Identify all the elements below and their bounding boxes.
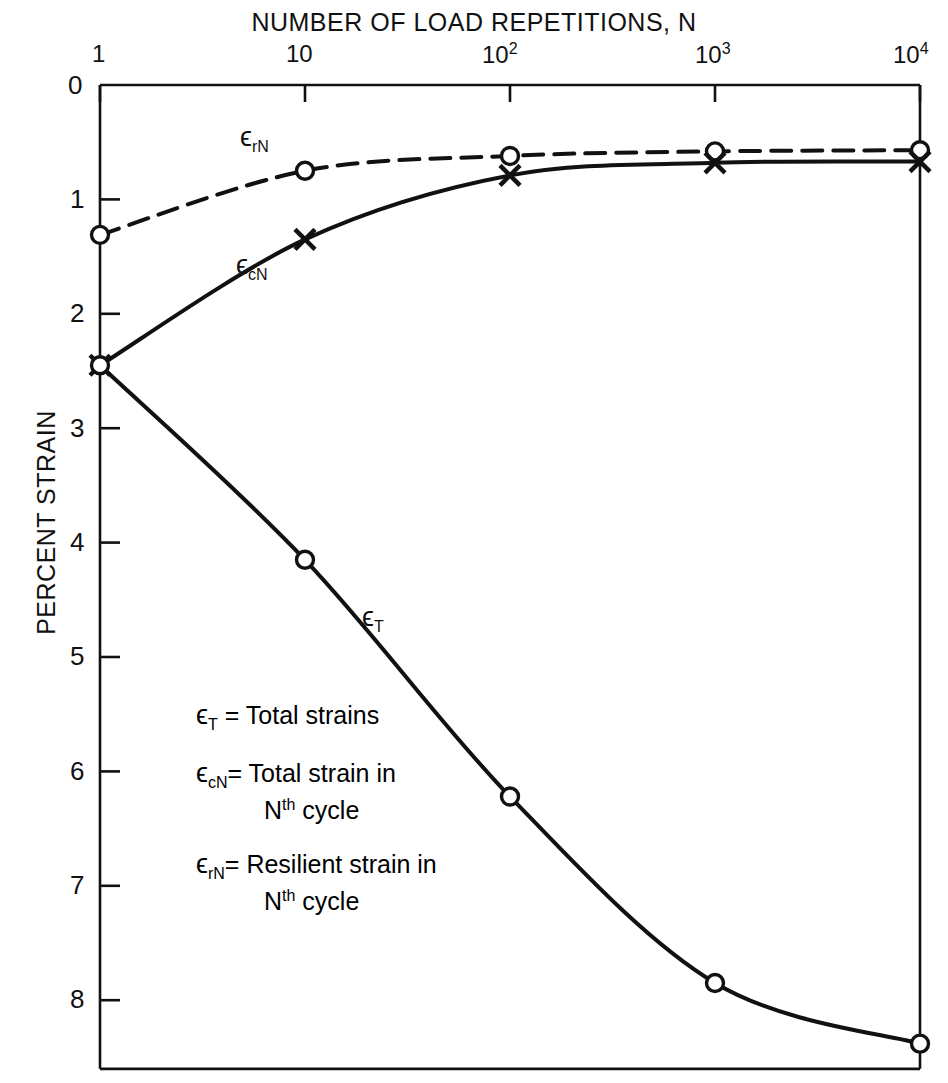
- marker-circle-total-strain: [707, 975, 724, 992]
- marker-circle-total-strain: [912, 1035, 929, 1052]
- marker-circle-resilient-strain: [502, 147, 519, 164]
- axes: [100, 85, 920, 1069]
- strain-vs-load-repetitions-chart: NUMBER OF LOAD REPETITIONS, N PERCENT ST…: [0, 0, 948, 1083]
- series-path-total-strain: [100, 365, 920, 1043]
- marker-circle-total-strain: [502, 788, 519, 805]
- marker-circle-total-strain: [297, 551, 314, 568]
- marker-circle-resilient-strain: [297, 162, 314, 179]
- data-series: [100, 150, 920, 1043]
- data-markers: [90, 142, 930, 1052]
- plot-area: [0, 0, 948, 1083]
- marker-circle-total-strain: [92, 357, 109, 374]
- marker-circle-resilient-strain: [92, 226, 109, 243]
